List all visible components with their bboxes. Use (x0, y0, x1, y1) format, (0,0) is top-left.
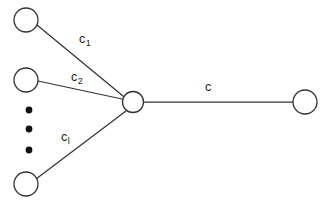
edge-label-c1-subscript: 1 (86, 38, 91, 48)
edge-group (36, 25, 293, 179)
destination-node (293, 90, 317, 114)
edge-label-c1: c1 (79, 33, 90, 46)
relay-node (123, 92, 144, 113)
vertical-ellipsis-dot (26, 107, 33, 114)
vertical-ellipsis (26, 107, 33, 154)
edge-label-c-base: c (205, 80, 211, 94)
edge-label-c2: c2 (71, 71, 82, 84)
graph-canvas (0, 0, 327, 203)
edge-label-cl-subscript: l (68, 136, 70, 146)
edge-label-c2-subscript: 2 (78, 76, 83, 86)
edge-label-cl-base: c (61, 130, 67, 144)
source-node-1 (14, 8, 38, 32)
vertical-ellipsis-dot (26, 147, 33, 154)
vertical-ellipsis-dot (26, 126, 33, 133)
edge-label-c1-base: c (79, 32, 85, 46)
source-node-2 (14, 68, 38, 92)
edge-label-c: c (205, 81, 211, 94)
source-node-l (14, 172, 38, 196)
figure-root: c1 c2 cl c (0, 0, 327, 203)
edge-label-c2-base: c (71, 70, 77, 84)
edge-label-cl: cl (61, 131, 69, 144)
edge-leafl-hub (36, 111, 126, 179)
